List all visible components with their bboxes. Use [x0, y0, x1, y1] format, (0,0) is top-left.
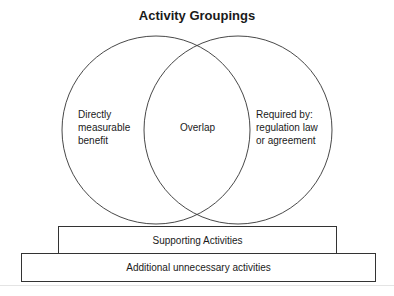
overlap-label: Overlap — [180, 121, 215, 134]
right-label-line: Required by: — [256, 108, 318, 121]
left-label-line: benefit — [78, 134, 130, 147]
right-circle-label: Required by: regulation law or agreement — [256, 108, 318, 147]
left-circle-label: Directly measurable benefit — [78, 108, 130, 147]
additional-activities-label: Additional unnecessary activities — [126, 262, 271, 273]
supporting-activities-label: Supporting Activities — [152, 235, 242, 246]
page-edge-divider — [0, 285, 394, 286]
right-label-line: or agreement — [256, 134, 318, 147]
supporting-activities-box: Supporting Activities — [58, 226, 337, 254]
left-label-line: measurable — [78, 121, 130, 134]
additional-activities-box: Additional unnecessary activities — [21, 253, 376, 282]
left-label-line: Directly — [78, 108, 130, 121]
right-label-line: regulation law — [256, 121, 318, 134]
